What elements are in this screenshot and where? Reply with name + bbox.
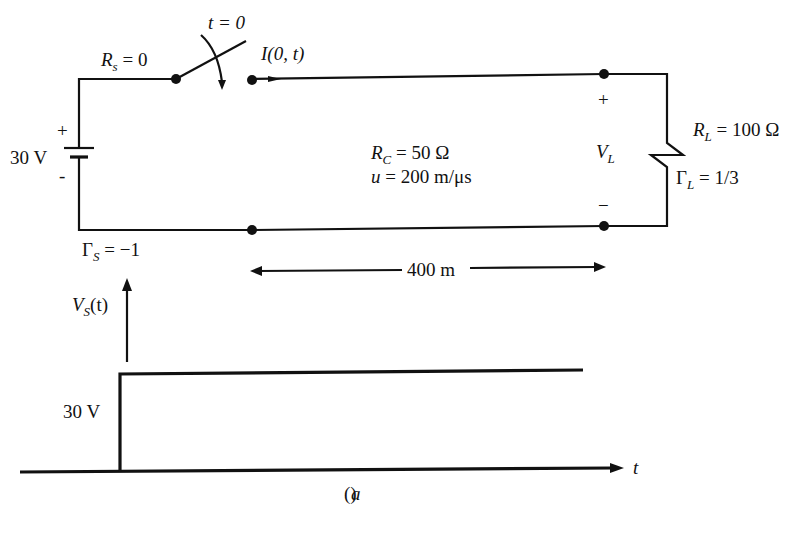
x-axis-arrow-icon [610,463,624,473]
line-top-conductor [252,74,604,79]
gamma-s-label: ΓS = −1 [82,239,140,264]
rc-label: RC = 50 Ω [370,142,449,167]
y-axis-label: VS(t) [72,294,108,319]
velocity-label: u = 200 m/μs [371,166,472,187]
x-axis [20,468,612,472]
current-label: I(0, t) [260,43,304,65]
circuit [64,35,683,235]
switch-time-label: t = 0 [208,12,246,33]
vl-plus-sign: + [598,89,609,110]
transmission-line-figure: 30 V + - Rs = 0 t = 0 I(0, t) ΓS = −1 RC… [0,0,803,552]
source-waveform: VS(t) t 30 V [20,278,639,478]
load-resistor-icon [604,74,683,226]
switch-icon [171,35,246,90]
gamma-l-label: ΓL = 1/3 [676,167,739,192]
length-dimension: 400 m [250,259,606,280]
source-top-wire [79,79,176,148]
step-function [120,370,583,472]
figure-caption-letter: a [351,483,361,504]
step-amplitude-label: 30 V [63,401,100,422]
source-voltage-label: 30 V [10,147,47,168]
vl-minus-sign: − [598,195,609,216]
vl-label: VL [596,141,615,166]
arrow-right-icon [594,262,606,272]
length-label: 400 m [407,259,455,280]
source-minus-sign: - [59,165,65,186]
current-arrow-icon [268,76,281,82]
y-axis-arrow-icon [122,278,132,291]
battery-icon [64,148,94,157]
rl-label: RL = 100 Ω [692,119,779,144]
rs-label: Rs = 0 [100,49,147,74]
source-bottom-wire [79,157,252,230]
arrow-left-icon [250,266,262,276]
x-axis-label: t [633,457,639,478]
line-bottom-conductor [252,226,604,230]
source-plus-sign: + [57,120,68,141]
